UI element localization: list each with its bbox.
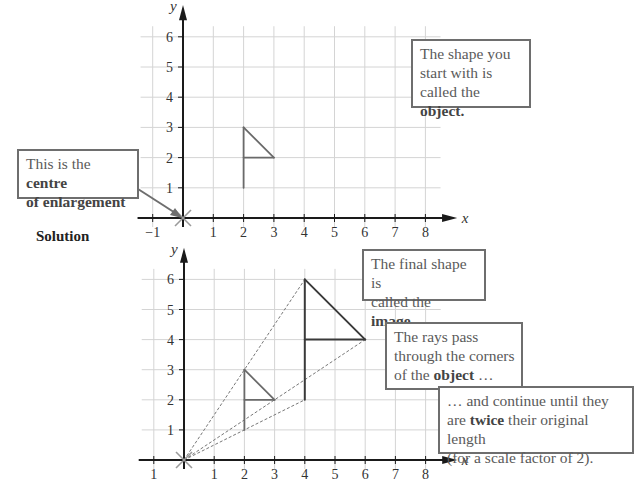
svg-text:6: 6 [167, 272, 174, 287]
svg-text:5: 5 [167, 303, 174, 318]
svg-text:−1: −1 [145, 225, 160, 240]
callout-text: This is the [26, 155, 91, 172]
svg-text:5: 5 [166, 60, 173, 75]
callout-text: (for a scale factor of 2). [447, 449, 593, 466]
scale-factor-callout: … and continue until they are twice thei… [438, 386, 634, 454]
callout-bold-text: object [434, 366, 474, 383]
svg-text:3: 3 [271, 467, 278, 482]
svg-text:2: 2 [167, 393, 174, 408]
callout-text: called the [371, 293, 431, 310]
svg-text:7: 7 [392, 225, 399, 240]
svg-text:2: 2 [240, 225, 247, 240]
svg-text:3: 3 [167, 363, 174, 378]
x-axis-arrow-icon [442, 214, 457, 222]
callout-text: … and continue until they [447, 392, 609, 409]
svg-text:6: 6 [361, 225, 368, 240]
callout-text: of the [394, 366, 434, 383]
callout-text: are [447, 411, 470, 428]
solution-heading: Solution [36, 228, 89, 245]
svg-text:6: 6 [362, 467, 369, 482]
svg-text:7: 7 [392, 467, 399, 482]
svg-text:1: 1 [211, 467, 218, 482]
svg-text:5: 5 [331, 225, 338, 240]
svg-text:2: 2 [166, 151, 173, 166]
svg-text:8: 8 [422, 225, 429, 240]
svg-text:1: 1 [167, 423, 174, 438]
tick-labels: −112345678123456xy [145, 0, 469, 240]
callout-bold-text: of enlargement [26, 193, 125, 210]
axes [138, 5, 458, 227]
callout-text: The final shape is [371, 255, 467, 291]
rays-callout: The rays pass through the corners of the… [385, 322, 523, 390]
svg-text:y: y [168, 0, 177, 14]
svg-text:1: 1 [150, 467, 157, 482]
callout-text: through the corners [394, 347, 515, 364]
svg-text:4: 4 [167, 333, 174, 348]
object-shape [244, 127, 274, 187]
y-axis-arrow-icon [179, 5, 187, 20]
svg-text:6: 6 [166, 30, 173, 45]
svg-text:1: 1 [166, 181, 173, 196]
grid-lines [141, 26, 441, 227]
svg-text:1: 1 [210, 225, 217, 240]
callout-text: The shape you [420, 45, 510, 62]
callout-text: … [474, 366, 493, 383]
svg-text:x: x [461, 210, 469, 226]
callout-bold-text: object. [420, 102, 464, 119]
centre-of-enlargement-callout: This is the centre of enlargement [17, 149, 139, 199]
svg-text:4: 4 [166, 90, 173, 105]
callout-text: The rays pass [394, 328, 478, 345]
svg-text:y: y [169, 241, 178, 257]
callout-bold-text: twice [470, 411, 504, 428]
svg-text:4: 4 [301, 467, 308, 482]
svg-text:2: 2 [241, 467, 248, 482]
svg-text:3: 3 [166, 120, 173, 135]
svg-text:5: 5 [332, 467, 339, 482]
callout-bold-text: centre [26, 174, 67, 191]
arrowhead-icon [170, 208, 182, 218]
y-axis-arrow-icon [180, 248, 188, 263]
svg-text:4: 4 [301, 225, 308, 240]
svg-text:3: 3 [270, 225, 277, 240]
image-callout: The final shape is called the image. [362, 249, 486, 301]
object-callout: The shape you start with is called the o… [411, 39, 531, 108]
svg-text:8: 8 [422, 467, 429, 482]
callout-text: called the [420, 83, 480, 100]
callout-text: start with is [420, 64, 492, 81]
